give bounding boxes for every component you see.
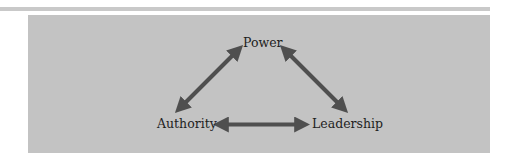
diagram-arrows — [0, 0, 516, 164]
node-leadership-label: Leadership — [312, 118, 383, 131]
node-authority-label: Authority — [157, 118, 217, 131]
node-power-label: Power — [243, 37, 283, 50]
arrow-power-leadership — [285, 50, 343, 108]
arrow-authority-power — [180, 50, 238, 108]
